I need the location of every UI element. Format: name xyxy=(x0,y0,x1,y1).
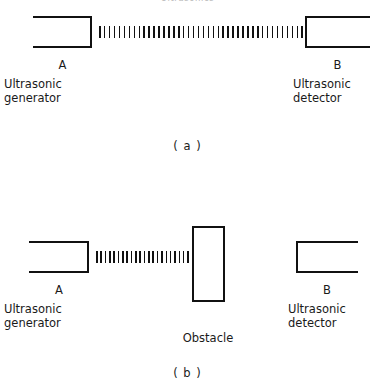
wave-tick xyxy=(242,26,244,38)
wave-tick xyxy=(203,26,205,38)
wave-tick xyxy=(257,26,259,38)
wave-tick xyxy=(166,251,168,263)
panel-b-generator-caption-line-1: Ultrasonic xyxy=(4,303,120,317)
wave-tick xyxy=(131,251,133,263)
wave-tick xyxy=(113,251,115,263)
wave-tick xyxy=(124,26,126,38)
wave-tick xyxy=(198,26,200,38)
wave-tick xyxy=(135,251,137,263)
wave-tick xyxy=(252,26,254,38)
wave-tick xyxy=(218,26,220,38)
panel-b-generator-caption-line-2: generator xyxy=(4,317,120,331)
wave-tick xyxy=(183,26,185,38)
wave-tick xyxy=(272,26,274,38)
wave-tick xyxy=(148,251,150,263)
wave-tick xyxy=(227,26,229,38)
wave-tick xyxy=(139,251,141,263)
wave-tick xyxy=(100,251,102,263)
wave-tick xyxy=(262,26,264,38)
panel-a-ultrasonic-wave-train xyxy=(99,26,303,38)
panel-b-generator-letter: A xyxy=(29,284,89,297)
wave-tick xyxy=(287,26,289,38)
wave-tick xyxy=(297,26,299,38)
wave-tick xyxy=(152,251,154,263)
wave-tick xyxy=(277,26,279,38)
wave-tick xyxy=(109,251,111,263)
wave-tick xyxy=(222,26,224,38)
panel-b-ultrasonic-generator-box xyxy=(29,241,89,273)
panel-b-detector-caption-line-1: Ultrasonic xyxy=(288,303,375,317)
panel-a-detector-caption-line-1: Ultrasonic xyxy=(293,78,375,92)
panel-b-detector-letter: B xyxy=(296,284,358,297)
wave-tick xyxy=(178,26,180,38)
panel-b-ultrasonic-wave-train xyxy=(96,251,189,263)
wave-tick xyxy=(96,251,98,263)
wave-tick xyxy=(114,26,116,38)
top-clipped-caption: Ultrasonics xyxy=(0,0,375,1)
wave-tick xyxy=(122,251,124,263)
wave-tick xyxy=(267,26,269,38)
wave-tick xyxy=(119,26,121,38)
wave-tick xyxy=(179,251,181,263)
panel-a-ultrasonic-detector-box xyxy=(305,16,370,48)
panel-b-caption: ( b ) xyxy=(0,366,375,380)
wave-tick xyxy=(187,251,189,263)
wave-tick xyxy=(118,251,120,263)
panel-a-detector-letter: B xyxy=(305,59,370,72)
wave-tick xyxy=(301,26,303,38)
wave-tick xyxy=(104,26,106,38)
wave-tick xyxy=(144,251,146,263)
wave-tick xyxy=(158,26,160,38)
wave-tick xyxy=(247,26,249,38)
panel-b-obstacle-caption: Obstacle xyxy=(148,331,268,345)
wave-tick xyxy=(213,26,215,38)
wave-tick xyxy=(292,26,294,38)
wave-tick xyxy=(139,26,141,38)
panel-a-detector-caption-line-2: detector xyxy=(293,92,375,106)
wave-tick xyxy=(174,251,176,263)
wave-tick xyxy=(173,26,175,38)
panel-a-generator-caption-line-2: generator xyxy=(4,92,120,106)
panel-a-generator-caption: Ultrasonic generator xyxy=(4,78,120,105)
panel-b-detector-caption: Ultrasonic detector xyxy=(288,303,375,330)
wave-tick xyxy=(232,26,234,38)
wave-tick xyxy=(188,26,190,38)
wave-tick xyxy=(157,251,159,263)
wave-tick xyxy=(208,26,210,38)
wave-tick xyxy=(109,26,111,38)
wave-tick xyxy=(161,251,163,263)
wave-tick xyxy=(143,26,145,38)
wave-tick xyxy=(183,251,185,263)
panel-b-ultrasonic-detector-box xyxy=(296,241,358,273)
wave-tick xyxy=(193,26,195,38)
panel-a-detector-caption: Ultrasonic detector xyxy=(293,78,375,105)
wave-tick xyxy=(105,251,107,263)
wave-tick xyxy=(99,26,101,38)
wave-tick xyxy=(237,26,239,38)
wave-tick xyxy=(153,26,155,38)
panel-a-ultrasonic-generator-box xyxy=(33,16,92,48)
wave-tick xyxy=(170,251,172,263)
wave-tick xyxy=(126,251,128,263)
panel-a-generator-caption-line-1: Ultrasonic xyxy=(4,78,120,92)
panel-b-obstacle-block xyxy=(192,226,225,302)
wave-tick xyxy=(163,26,165,38)
wave-tick xyxy=(148,26,150,38)
panel-a-generator-letter: A xyxy=(33,59,92,72)
wave-tick xyxy=(134,26,136,38)
ultrasonic-transmission-figure: Ultrasonics A B Ultrasonic generator Ult… xyxy=(0,0,375,388)
wave-tick xyxy=(168,26,170,38)
panel-a-caption: ( a ) xyxy=(0,139,375,153)
wave-tick xyxy=(282,26,284,38)
panel-b-generator-caption: Ultrasonic generator xyxy=(4,303,120,330)
panel-b-detector-caption-line-2: detector xyxy=(288,317,375,331)
wave-tick xyxy=(129,26,131,38)
